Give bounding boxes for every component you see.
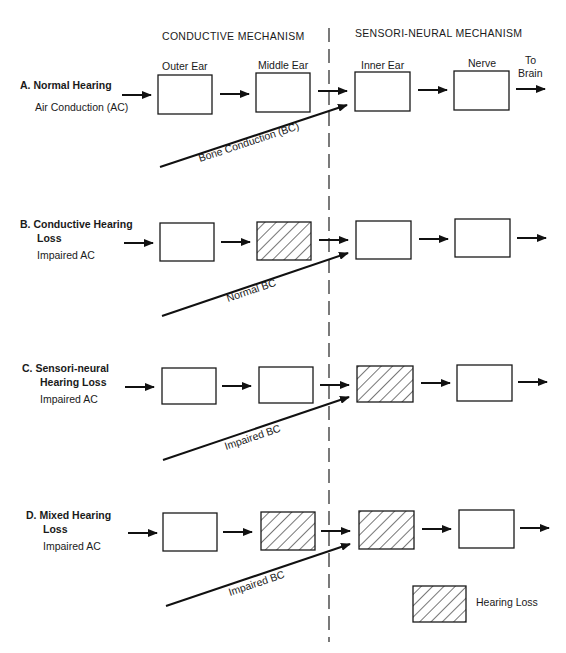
row-c-ac-label: Impaired AC <box>40 393 98 405</box>
row-b-ac-label: Impaired AC <box>37 249 95 261</box>
row-c-bc-label: Impaired BC <box>223 422 283 452</box>
row-b-conductive-loss: B. Conductive Hearing Loss Impaired AC N… <box>20 218 546 316</box>
box-nerve <box>455 219 510 257</box>
box-inner-ear <box>356 221 411 259</box>
box-outer-ear <box>163 513 217 551</box>
row-d-mixed-loss: D. Mixed Hearing Loss Impaired AC Impair… <box>26 509 549 606</box>
label-nerve: Nerve <box>468 57 496 69</box>
row-d-title-1: D. Mixed Hearing <box>26 509 111 521</box>
legend-label: Hearing Loss <box>476 596 538 608</box>
box-middle-ear <box>256 73 310 112</box>
box-nerve <box>457 365 512 401</box>
row-a-title: A. Normal Hearing <box>20 79 112 91</box>
box-outer-ear <box>158 75 212 114</box>
label-middle-ear: Middle Ear <box>258 59 309 71</box>
box-outer-ear <box>162 368 216 404</box>
box-middle-ear <box>259 367 313 403</box>
label-to-brain-2: Brain <box>518 67 543 79</box>
header-sensorineural: SENSORI-NEURAL MECHANISM <box>355 27 522 39</box>
row-d-title-2: Loss <box>43 523 68 535</box>
label-to-brain-1: To <box>525 54 536 66</box>
label-outer-ear: Outer Ear <box>162 60 208 72</box>
box-middle-ear-impaired <box>257 222 311 260</box>
legend: Hearing Loss <box>413 586 538 622</box>
box-nerve <box>454 71 509 110</box>
row-d-ac-label: Impaired AC <box>43 540 101 552</box>
row-c-title-2: Hearing Loss <box>40 376 107 388</box>
hearing-loss-diagram: CONDUCTIVE MECHANISM SENSORI-NEURAL MECH… <box>0 0 566 653</box>
box-nerve <box>459 510 514 548</box>
row-b-bc-label: Normal BC <box>225 276 278 304</box>
row-d-bc-label: Impaired BC <box>227 568 287 598</box>
legend-hatched-swatch <box>413 586 466 622</box>
box-inner-ear <box>355 72 410 111</box>
row-b-title-2: Loss <box>37 232 62 244</box>
header-conductive: CONDUCTIVE MECHANISM <box>162 30 305 42</box>
label-inner-ear: Inner Ear <box>361 59 405 71</box>
row-a-normal-hearing: A. Normal Hearing Air Conduction (AC) Bo… <box>20 71 545 167</box>
box-middle-ear-impaired <box>261 512 315 550</box>
box-inner-ear-impaired <box>359 511 414 549</box>
row-a-ac-label: Air Conduction (AC) <box>35 101 128 113</box>
box-outer-ear <box>160 223 214 261</box>
row-c-sensorineural-loss: C. Sensori-neural Hearing Loss Impaired … <box>22 362 547 460</box>
row-a-bc-label: Bone Conduction (BC) <box>197 120 301 164</box>
row-b-title-1: B. Conductive Hearing <box>20 218 133 230</box>
row-c-title-1: C. Sensori-neural <box>22 362 109 374</box>
box-inner-ear-impaired <box>357 366 413 402</box>
